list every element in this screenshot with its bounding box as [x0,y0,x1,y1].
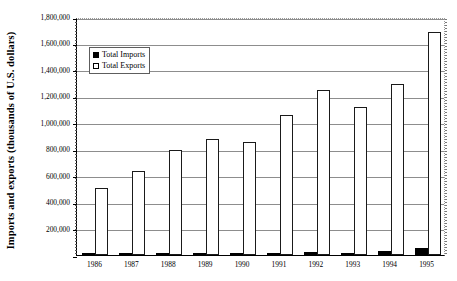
x-axis-tick-label: 1992 [297,260,334,269]
bar-total-exports[interactable] [243,142,256,255]
y-axis-title-text: Imports and exports (thousands of U.S. d… [6,32,17,250]
x-axis-tick-label: 1988 [150,260,187,269]
x-axis-tick-label: 1986 [76,260,113,269]
legend-swatch-open-square-icon [93,63,99,69]
bar-total-imports[interactable] [193,253,206,255]
bar-total-imports[interactable] [341,253,354,255]
bar-total-exports[interactable] [206,139,219,255]
bar-total-exports[interactable] [354,107,367,255]
x-axis-tick-label: 1993 [334,260,371,269]
x-axis-tick-label: 1987 [113,260,150,269]
x-axis-tick-label: 1995 [408,260,445,269]
bar-total-imports[interactable] [230,253,243,255]
bar-total-exports[interactable] [132,171,145,255]
x-axis-tick-labels: 1986198719881989199019911992199319941995 [76,258,445,278]
x-axis-tick-label: 1990 [224,260,261,269]
bar-group [151,19,188,255]
chart-figure: Imports and exports (thousands of U.S. d… [0,0,457,281]
y-axis-tick-label: 1,200,000 [40,93,70,101]
bar-group [409,19,446,255]
bar-total-imports[interactable] [378,251,391,255]
legend-item-label: Total Imports [102,50,145,61]
y-axis-tick-label: 1,600,000 [40,40,70,48]
x-axis-tick-label: 1991 [261,260,298,269]
y-axis-tick-label: 200,000 [46,226,70,234]
y-axis-tick-labels: 200,000400,000600,000800,0001,000,0001,2… [22,0,74,281]
y-axis-tick-label: 400,000 [46,199,70,207]
bar-group [298,19,335,255]
bar-total-exports[interactable] [428,32,441,255]
bar-total-exports[interactable] [169,150,182,255]
x-axis-tick-label: 1994 [371,260,408,269]
bar-total-imports[interactable] [267,253,280,255]
bar-total-imports[interactable] [304,252,317,255]
y-axis-tick-label: 600,000 [46,173,70,181]
chart-legend: Total ImportsTotal Exports [89,47,150,74]
legend-item: Total Exports [93,61,145,72]
bar-total-exports[interactable] [280,115,293,255]
bar-group [188,19,225,255]
bar-group [225,19,262,255]
y-axis-title: Imports and exports (thousands of U.S. d… [0,0,22,281]
y-axis-tick-label: 1,800,000 [40,14,70,22]
y-axis-tick-label: 1,400,000 [40,67,70,75]
bar-total-exports[interactable] [95,188,108,255]
x-axis-tick-label: 1989 [187,260,224,269]
y-axis-tick-label: 800,000 [46,146,70,154]
y-axis-tick-label: 1,000,000 [40,120,70,128]
bar-group [372,19,409,255]
bar-total-exports[interactable] [391,84,404,255]
legend-swatch-filled-square-icon [93,52,99,58]
legend-item: Total Imports [93,50,145,61]
bar-group [335,19,372,255]
bar-total-imports[interactable] [119,253,132,255]
bar-total-imports[interactable] [415,248,428,255]
legend-item-label: Total Exports [102,61,145,72]
bar-total-imports[interactable] [82,253,95,255]
bar-total-exports[interactable] [317,90,330,255]
bar-total-imports[interactable] [156,253,169,255]
bar-group [262,19,299,255]
